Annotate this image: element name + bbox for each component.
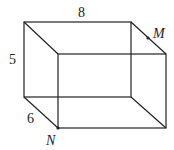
height-label: 5: [9, 52, 16, 67]
point-m-label: M: [152, 26, 166, 41]
point-n-label: N: [45, 133, 56, 148]
edge-bottom-right: [131, 97, 166, 128]
depth-label: 6: [27, 111, 34, 126]
back-face: [24, 22, 131, 97]
point-n: [56, 126, 59, 129]
point-m: [146, 36, 149, 39]
front-face: [58, 54, 166, 128]
edge-top-left: [24, 22, 58, 54]
prism-diagram: 8 5 6 M N: [0, 0, 174, 150]
length-label: 8: [78, 5, 85, 20]
